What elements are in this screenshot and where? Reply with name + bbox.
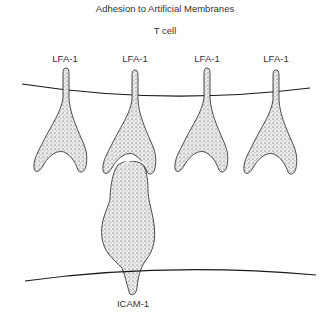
lfa1-molecule-1 <box>34 68 87 172</box>
lfa1-molecule-3 <box>175 68 228 172</box>
lfa1-molecule-4 <box>244 70 297 174</box>
adhesion-diagram <box>0 0 330 325</box>
icam1-molecule <box>102 161 155 295</box>
artificial-membrane <box>25 270 316 281</box>
lfa1-molecule-2 <box>103 70 156 174</box>
